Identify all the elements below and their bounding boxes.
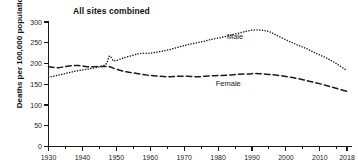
series-line-female	[49, 66, 348, 92]
x-tick-label: 2000	[278, 154, 294, 161]
y-tick-label: 0	[38, 143, 42, 150]
y-axis: 050100150200250300	[30, 19, 48, 151]
x-tick-label: 1940	[75, 154, 91, 161]
y-tick-label: 250	[30, 39, 42, 46]
y-tick-label: 200	[30, 60, 42, 67]
data-series-group	[49, 30, 348, 91]
series-line-male	[49, 30, 348, 77]
annotation-female: Female	[216, 79, 241, 88]
x-axis: 1930194019501960197019801990200020102018	[41, 147, 355, 161]
y-tick-label: 150	[30, 81, 42, 88]
x-tick-label: 1950	[109, 154, 125, 161]
x-tick-label: 2018	[339, 154, 355, 161]
x-tick-label: 1960	[142, 154, 158, 161]
x-tick-label: 1970	[176, 154, 192, 161]
x-tick-label: 2010	[312, 154, 328, 161]
x-tick-label: 1980	[210, 154, 226, 161]
y-tick-label: 50	[34, 122, 42, 129]
annotation-male: Male	[227, 32, 243, 41]
series-annotations: MaleFemale	[216, 32, 243, 87]
chart-container: All sites combined Deaths per 100,000 po…	[0, 0, 358, 168]
x-tick-label: 1930	[41, 154, 57, 161]
x-tick-label: 1990	[244, 154, 260, 161]
y-tick-label: 300	[30, 19, 42, 26]
plot-area: 050100150200250300 193019401950196019701…	[0, 0, 358, 168]
y-tick-label: 100	[30, 102, 42, 109]
